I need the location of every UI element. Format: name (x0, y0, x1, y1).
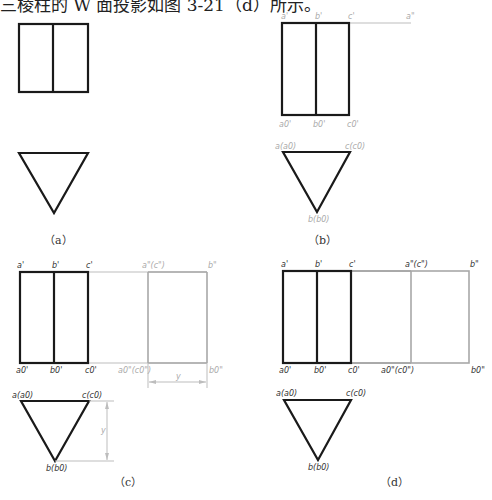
label-b-prime: b' (315, 12, 322, 21)
panel-d: a' b' c' a"(c") b" a0' b0' c0' a0"(c0") … (276, 260, 485, 489)
label-c-prime: c' (348, 12, 355, 21)
label-a-a0: a(a0) (276, 389, 297, 398)
label-ac-double-prime: a"(c") (142, 261, 165, 270)
label-a0-prime: a0' (16, 366, 28, 375)
label-b-prime: b' (315, 260, 322, 269)
label-a-double-prime: a" (406, 12, 415, 21)
panel-b: a' b' c' a" a0' b0' c0' a(a0) c(c0) b(b0… (275, 12, 415, 247)
label-b0-double-prime: b0" (209, 366, 223, 375)
arrow-right-icon (199, 380, 206, 384)
label-c-c0: c(c0) (82, 391, 102, 400)
label-a-prime: a' (281, 260, 288, 269)
caption-c: （c） (114, 476, 142, 489)
label-c-c0: c(c0) (345, 142, 365, 151)
label-b-double-prime: b" (470, 260, 479, 269)
top-view-triangle (284, 400, 351, 460)
label-b-b0: b(b0) (308, 463, 330, 472)
caption-b: （b） (308, 234, 337, 247)
label-c-prime: c' (349, 260, 356, 269)
top-view-triangle (283, 152, 350, 212)
dim-label-y-horizontal: y (175, 372, 181, 381)
side-view-rect (411, 271, 469, 363)
label-a0-prime: a0' (279, 120, 291, 129)
top-view-triangle (19, 153, 88, 213)
label-ac0-double-prime: a0"(c0") (118, 366, 151, 375)
label-b-double-prime: b" (208, 261, 217, 270)
projection-figure: （a） a' b' c' a" a0' b0' c0' a(a0) c(c0) … (0, 0, 492, 500)
arrow-down-icon (105, 453, 109, 460)
dim-label-y-vertical: y (100, 426, 106, 435)
label-a-prime: a' (281, 12, 288, 21)
label-a0-prime: a0' (279, 366, 291, 375)
label-ac-double-prime: a"(c") (405, 260, 428, 269)
arrow-left-icon (149, 380, 156, 384)
label-b0-prime: b0' (313, 120, 325, 129)
label-b0-prime: b0' (50, 366, 62, 375)
label-b0-prime: b0' (314, 366, 326, 375)
label-c0-prime: c0' (85, 366, 97, 375)
label-c0-prime: c0' (348, 366, 360, 375)
top-view-triangle (21, 401, 89, 461)
caption-a: （a） (44, 234, 73, 247)
label-c-c0: c(c0) (346, 389, 366, 398)
caption-d: （d） (380, 476, 409, 489)
label-a-prime: a' (17, 261, 24, 270)
label-b-b0: b(b0) (308, 215, 330, 224)
label-c-prime: c' (86, 261, 93, 270)
label-b0-double-prime: b0" (471, 366, 485, 375)
label-b-prime: b' (52, 261, 59, 270)
label-ac0-double-prime: a0"(c0") (381, 366, 414, 375)
panel-c: y a' b' c' a"(c") b" a0' b0' c0' a0"(c0"… (12, 261, 223, 489)
label-a-a0: a(a0) (275, 142, 296, 151)
label-b-b0: b(b0) (46, 464, 68, 473)
label-c0-prime: c0' (347, 120, 359, 129)
arrow-up-icon (105, 402, 109, 409)
label-a-a0: a(a0) (12, 391, 33, 400)
panel-a: （a） (19, 24, 88, 247)
